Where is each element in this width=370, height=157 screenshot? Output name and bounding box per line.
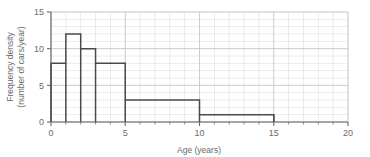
figure-background (0, 0, 370, 157)
y-tick-label: 15 (34, 7, 44, 17)
y-tick-label: 0 (39, 117, 44, 127)
x-tick-label: 0 (48, 128, 53, 138)
histogram-figure: 05101520 051015 Age (years) Frequency de… (0, 0, 370, 157)
y-tick-label: 5 (39, 81, 44, 91)
y-tick-label: 10 (34, 44, 44, 54)
x-tick-label: 20 (343, 128, 353, 138)
x-tick-label: 10 (194, 128, 204, 138)
x-axis-title: Age (years) (177, 145, 221, 155)
y-axis-title-line-1: Frequency density (5, 32, 15, 102)
y-axis-title-line-2: (number of cars/year) (16, 26, 26, 107)
x-tick-label: 5 (123, 128, 128, 138)
x-tick-label: 15 (269, 128, 279, 138)
frequency-density-histogram: 05101520 051015 Age (years) Frequency de… (0, 0, 370, 157)
